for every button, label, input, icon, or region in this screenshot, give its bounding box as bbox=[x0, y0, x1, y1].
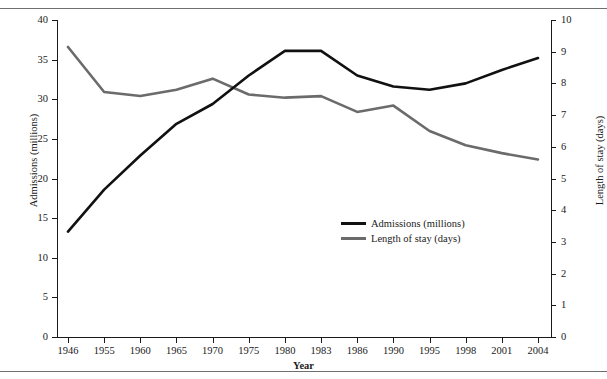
legend-label-admissions: Admissions (millions) bbox=[371, 218, 465, 229]
legend-swatch-icon-admissions bbox=[341, 222, 366, 225]
legend-item-length-of-stay: Length of stay (days) bbox=[341, 231, 465, 246]
chart-figure: 0510152025303540 012345678910 1946195519… bbox=[0, 0, 607, 379]
chart-legend: Admissions (millions) Length of stay (da… bbox=[341, 216, 465, 246]
legend-swatch-icon-length-of-stay bbox=[341, 237, 366, 240]
legend-item-admissions: Admissions (millions) bbox=[341, 216, 465, 231]
series-line-length-of-stay bbox=[68, 51, 538, 232]
series-canvas bbox=[0, 0, 607, 379]
series-line-admissions bbox=[68, 47, 538, 160]
legend-label-length-of-stay: Length of stay (days) bbox=[371, 233, 461, 244]
